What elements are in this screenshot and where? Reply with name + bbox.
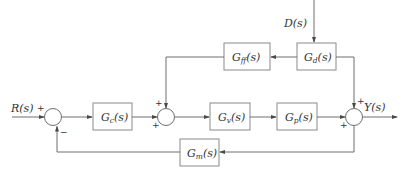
svg-text:Gc(s): Gc(s) xyxy=(101,111,128,125)
gd-to-sum3-line xyxy=(336,57,354,108)
summing-junction-2 xyxy=(158,109,175,126)
reference-input: R(s) + xyxy=(10,102,45,117)
block-gd: Gd(s) xyxy=(297,43,336,70)
summing-junction-3 xyxy=(346,109,363,126)
disturbance-input: D(s) xyxy=(283,0,314,42)
block-gc: Gc(s) xyxy=(93,103,132,130)
block-gv: Gv(s) xyxy=(210,103,250,130)
svg-text:+: + xyxy=(37,103,45,113)
summing-junction-1 xyxy=(45,109,62,126)
svg-text:Gd(s): Gd(s) xyxy=(304,51,332,65)
output-label: Y(s) xyxy=(364,101,386,114)
block-diagram: D(s) Gd(s) Gff(s) R(s) + − Gc(s) + + Gv xyxy=(0,0,406,179)
gff-to-sum2-line xyxy=(166,57,224,108)
svg-text:Gm(s): Gm(s) xyxy=(187,147,217,161)
disturbance-label: D(s) xyxy=(283,17,307,30)
block-gp: Gp(s) xyxy=(277,103,317,130)
svg-text:Gff(s): Gff(s) xyxy=(232,51,260,65)
svg-text:+: + xyxy=(340,120,348,130)
reference-label: R(s) xyxy=(10,102,34,115)
svg-text:+: + xyxy=(155,98,163,108)
sum1-minus-sign: − xyxy=(60,127,68,137)
svg-text:Gv(s): Gv(s) xyxy=(218,111,245,125)
svg-text:+: + xyxy=(152,120,160,130)
block-gm: Gm(s) xyxy=(180,139,219,166)
svg-text:Gp(s): Gp(s) xyxy=(285,111,313,125)
block-gff: Gff(s) xyxy=(224,43,270,70)
